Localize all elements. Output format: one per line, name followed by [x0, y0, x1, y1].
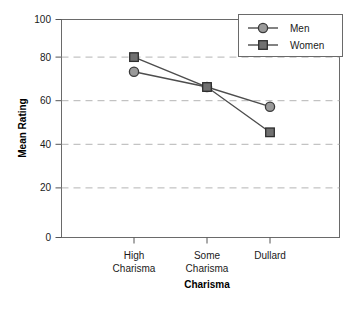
- data-point-men-dullard: [265, 102, 274, 111]
- y-tick-label-100: 100: [34, 14, 51, 25]
- data-point-women-some-charisma: [203, 83, 212, 92]
- legend[interactable]: Men Women: [239, 15, 343, 57]
- square-marker-icon: [259, 41, 268, 50]
- y-tick-label-80: 80: [40, 52, 52, 63]
- chart-figure: 100 80 60 40 20 0 Mean Rating High Chari…: [0, 0, 355, 311]
- data-point-women-dullard: [266, 128, 275, 137]
- y-tick-label-20: 20: [40, 182, 52, 193]
- x-label-high-charisma-line1: High: [124, 250, 145, 261]
- x-label-some-charisma-line2: Charisma: [186, 263, 229, 274]
- legend-label-women: Women: [290, 40, 324, 51]
- y-tick-label-40: 40: [40, 139, 52, 150]
- x-axis-title: Charisma: [184, 279, 230, 290]
- data-point-women-high-charisma: [130, 53, 139, 62]
- x-label-high-charisma-line2: Charisma: [113, 263, 156, 274]
- y-tick-label-60: 60: [40, 95, 52, 106]
- x-label-dullard: Dullard: [254, 250, 286, 261]
- legend-label-men: Men: [290, 23, 309, 34]
- line-chart: 100 80 60 40 20 0 Mean Rating High Chari…: [0, 0, 355, 311]
- data-point-men-high-charisma: [129, 67, 138, 76]
- circle-marker-icon: [258, 23, 267, 32]
- y-axis-title: Mean Rating: [17, 98, 28, 157]
- y-tick-label-0: 0: [45, 232, 51, 243]
- x-label-some-charisma-line1: Some: [194, 250, 221, 261]
